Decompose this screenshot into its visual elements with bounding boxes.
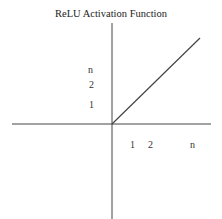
x-label-1: 1 xyxy=(130,139,135,150)
y-label-1: 1 xyxy=(89,99,94,110)
y-label-2: 2 xyxy=(89,79,94,90)
relu-line xyxy=(112,38,200,124)
relu-diagram xyxy=(0,0,222,219)
x-label-n: n xyxy=(190,139,195,150)
y-label-n: n xyxy=(88,64,93,75)
x-label-2: 2 xyxy=(148,139,153,150)
